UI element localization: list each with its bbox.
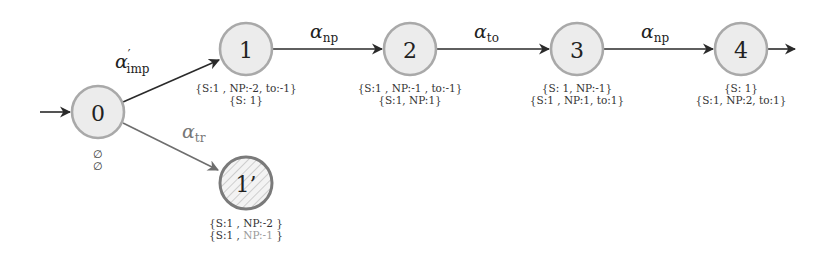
svg-text:1: 1: [239, 38, 253, 63]
edge-label-alpha-tr: αtr: [182, 120, 206, 145]
edge-3-4: αnp: [604, 20, 713, 49]
edge-label-alpha-to: αto: [474, 20, 499, 45]
annotation-node-3: {S: 1, NP:-1} {S:1 , NP:1, to:1}: [530, 82, 624, 107]
annotation-node-4: {S: 1} {S:1, NP:2, to:1}: [696, 82, 787, 107]
state-node-1: 1: [220, 23, 272, 75]
svg-text:{S:1, NP:1}: {S:1, NP:1}: [378, 94, 442, 107]
svg-text:2: 2: [403, 38, 417, 63]
state-node-3: 3: [551, 23, 603, 75]
edge-2-3: αto: [437, 20, 549, 49]
svg-text:{S:1 , NP:1, to:1}: {S:1 , NP:1, to:1}: [530, 94, 624, 107]
edge-label-alpha-np-1: αnp: [310, 20, 339, 45]
state-node-4: 4: [715, 23, 767, 75]
svg-text:3: 3: [570, 38, 584, 63]
automaton-diagram: α′imp αnp αto αnp αtr 0 1 2: [0, 0, 833, 267]
state-node-0: 0: [72, 86, 124, 138]
edge-label-alpha-np-2: αnp: [641, 20, 670, 45]
svg-text:∅: ∅: [93, 148, 103, 160]
svg-text:{S:1, NP:2, to:1}: {S:1, NP:2, to:1}: [696, 94, 787, 107]
annotation-node-1: {S:1 , NP:-2, to:-1} {S: 1}: [195, 82, 296, 107]
edge-1-2: αnp: [273, 20, 382, 49]
svg-text:1’: 1’: [236, 172, 257, 197]
state-node-1prime: 1’: [220, 157, 272, 209]
edge-0-1prime: αtr: [123, 120, 218, 170]
edge-label-alpha-imp: α′imp: [115, 48, 150, 76]
annotation-node-2: {S:1 , NP:-1 , to:-1} {S:1, NP:1}: [358, 82, 463, 107]
svg-text:4: 4: [734, 38, 748, 63]
state-node-2: 2: [384, 23, 436, 75]
annotation-node-1prime: {S:1 , NP:-2 } {S:1 , NP:-1 }: [209, 217, 283, 242]
annotation-node-0: ∅ ∅: [93, 148, 103, 172]
svg-text:0: 0: [91, 101, 105, 126]
svg-text:{S:1 , NP:-1 }: {S:1 , NP:-1 }: [209, 229, 283, 242]
svg-text:∅: ∅: [93, 160, 103, 172]
svg-text:{S: 1}: {S: 1}: [229, 94, 263, 107]
